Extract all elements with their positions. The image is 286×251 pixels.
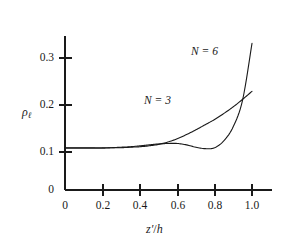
chart-figure: 0.3 0.2 0.1 0 0 0.2 0.4 0.6 0.8 1.0 ρℓ z…: [0, 0, 286, 251]
x-tick-label-0.6: 0.6: [164, 200, 192, 212]
x-tick-label-0.8: 0.8: [201, 200, 229, 212]
y-axis-title: ρℓ: [22, 106, 31, 120]
y-tick-label-0: 0: [26, 184, 54, 196]
y-tick-label-0.1: 0.1: [26, 146, 54, 158]
series-annotation-n6: N = 6: [191, 46, 218, 58]
x-tick-label-0.4: 0.4: [126, 200, 154, 212]
series-annotation-n3: N = 3: [144, 95, 171, 107]
x-axis-title-denominator: h: [157, 222, 163, 236]
x-tick-label-1.0: 1.0: [238, 200, 266, 212]
x-tick-label-0.2: 0.2: [89, 200, 117, 212]
x-axis-title: z′/h: [146, 223, 163, 235]
plot-background: [0, 0, 286, 251]
x-tick-label-0: 0: [51, 200, 79, 212]
y-axis-title-subscript: ℓ: [28, 110, 32, 120]
y-tick-label-0.3: 0.3: [26, 52, 54, 64]
plot-canvas: [0, 0, 286, 251]
